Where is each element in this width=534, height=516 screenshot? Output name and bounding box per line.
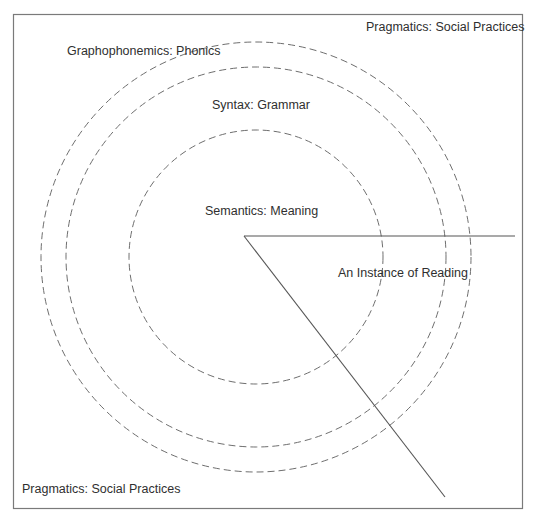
reading-cueing-systems-diagram [0,0,534,516]
graphophonemics-label: Graphophonemics: Phonics [67,44,221,58]
instance-of-reading-label: An Instance of Reading [338,266,468,280]
pragmatics-label-top: Pragmatics: Social Practices [366,20,524,34]
pragmatics-label-bottom: Pragmatics: Social Practices [22,482,180,496]
syntax-label: Syntax: Grammar [212,98,310,112]
syntax-circle [66,67,446,447]
semantics-label: Semantics: Meaning [205,204,318,218]
semantics-circle [129,130,383,384]
